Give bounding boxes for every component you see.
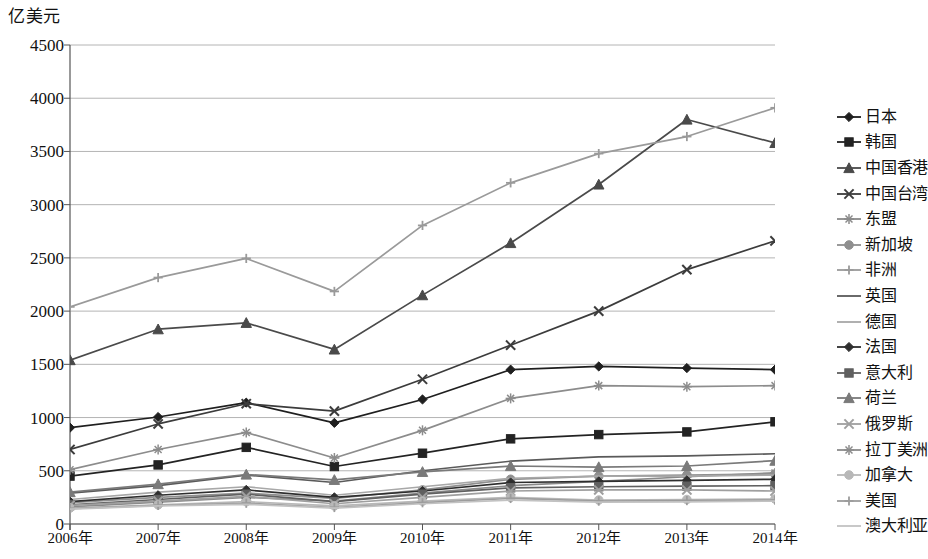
legend-item-label: 日本 [865, 109, 897, 125]
legend-item[interactable]: 新加坡 [836, 232, 928, 258]
legend-item[interactable]: 澳大利亚 [836, 514, 928, 540]
marker-circle [845, 471, 854, 480]
marker-diamond [844, 112, 853, 121]
legend-item[interactable]: 韩国 [836, 130, 928, 156]
marker-triangle [417, 290, 427, 300]
marker-diamond [682, 363, 691, 372]
legend-marker-icon [836, 442, 862, 458]
marker-square [683, 428, 691, 436]
marker-diamond [330, 418, 339, 427]
legend-item-label: 法国 [865, 339, 897, 355]
marker-square [506, 435, 514, 443]
legend-marker-icon [836, 390, 862, 406]
x-tick-label: 2012年 [576, 531, 621, 546]
legend-key-svg [836, 109, 862, 125]
legend-key-svg [836, 134, 862, 150]
legend-marker-icon [836, 186, 862, 202]
marker-diamond [65, 423, 74, 432]
marker-square [845, 369, 853, 377]
legend-item[interactable]: 日本 [836, 104, 928, 130]
legend-item[interactable]: 英国 [836, 283, 928, 309]
legend-marker-icon [836, 416, 862, 432]
marker-square [330, 462, 338, 470]
x-tick-label: 2011年 [488, 531, 532, 546]
x-tick-label: 2008年 [224, 531, 269, 546]
legend-item[interactable]: 加拿大 [836, 462, 928, 488]
legend-key-svg [836, 160, 862, 176]
legend-key-svg [836, 493, 862, 509]
legend-item-label: 澳大利亚 [865, 518, 928, 534]
legend-item-label: 美国 [865, 493, 897, 509]
legend-item[interactable]: 中国香港 [836, 155, 928, 181]
marker-triangle [505, 238, 515, 248]
legend-marker-icon [836, 262, 862, 278]
marker-diamond [506, 365, 515, 374]
marker-square [595, 430, 603, 438]
legend-marker-icon [836, 134, 862, 150]
x-tick-label: 2006年 [48, 531, 93, 546]
series-layer [65, 103, 780, 513]
legend-key-svg [836, 442, 862, 458]
legend-marker-icon [836, 288, 862, 304]
legend-key-svg [836, 365, 862, 381]
legend-item-label: 韩国 [865, 134, 897, 150]
marker-triangle [65, 355, 75, 365]
marker-triangle [682, 114, 692, 124]
legend-item[interactable]: 非洲 [836, 258, 928, 284]
legend-item-label: 德国 [865, 314, 897, 330]
series-日本 [65, 362, 779, 432]
legend-item[interactable]: 俄罗斯 [836, 411, 928, 437]
legend-item[interactable]: 荷兰 [836, 386, 928, 412]
legend-marker-icon [836, 314, 862, 330]
legend-item[interactable]: 美国 [836, 488, 928, 514]
legend-key-svg [836, 314, 862, 330]
legend-item-label: 新加坡 [865, 237, 912, 253]
legend-marker-icon [836, 211, 862, 227]
plot-area [0, 0, 928, 559]
legend-marker-icon [836, 493, 862, 509]
marker-circle [845, 240, 854, 249]
legend-item-label: 俄罗斯 [865, 416, 912, 432]
legend-item-label: 拉丁美洲 [865, 442, 928, 458]
line-chart: 亿美元 050010001500200025003000350040004500… [0, 0, 928, 559]
marker-diamond [418, 395, 427, 404]
legend-item[interactable]: 中国台湾 [836, 181, 928, 207]
legend-item[interactable]: 法国 [836, 334, 928, 360]
legend-marker-icon [836, 109, 862, 125]
legend-key-svg [836, 467, 862, 483]
marker-diamond [594, 362, 603, 371]
x-tick-label: 2013年 [664, 531, 709, 546]
legend-key-svg [836, 262, 862, 278]
legend-item-label: 东盟 [865, 211, 897, 227]
chart-legend: 日本韩国中国香港中国台湾东盟新加坡非洲英国德国法国意大利荷兰俄罗斯拉丁美洲加拿大… [836, 104, 928, 539]
legend-marker-icon [836, 467, 862, 483]
legend-item[interactable]: 意大利 [836, 360, 928, 386]
legend-marker-icon [836, 518, 862, 534]
legend-item-label: 非洲 [865, 262, 897, 278]
legend-item[interactable]: 拉丁美洲 [836, 437, 928, 463]
legend-marker-icon [836, 237, 862, 253]
x-tick-label: 2007年 [136, 531, 181, 546]
legend-item[interactable]: 东盟 [836, 206, 928, 232]
legend-marker-icon [836, 339, 862, 355]
legend-item-label: 荷兰 [865, 390, 897, 406]
legend-key-svg [836, 416, 862, 432]
marker-square [845, 138, 853, 146]
series-line [70, 241, 775, 450]
legend-key-svg [836, 237, 862, 253]
legend-item[interactable]: 德国 [836, 309, 928, 335]
x-tick-label: 2009年 [312, 531, 357, 546]
series-line [70, 120, 775, 361]
legend-item-label: 中国香港 [865, 160, 928, 176]
legend-marker-icon [836, 160, 862, 176]
legend-key-svg [836, 288, 862, 304]
legend-key-svg [836, 211, 862, 227]
legend-item-label: 加拿大 [865, 467, 912, 483]
legend-key-svg [836, 518, 862, 534]
legend-item-label: 中国台湾 [865, 186, 928, 202]
marker-square [154, 461, 162, 469]
x-tick-label: 2014年 [753, 531, 798, 546]
marker-diamond [770, 365, 779, 374]
legend-key-svg [836, 339, 862, 355]
marker-square [242, 443, 250, 451]
